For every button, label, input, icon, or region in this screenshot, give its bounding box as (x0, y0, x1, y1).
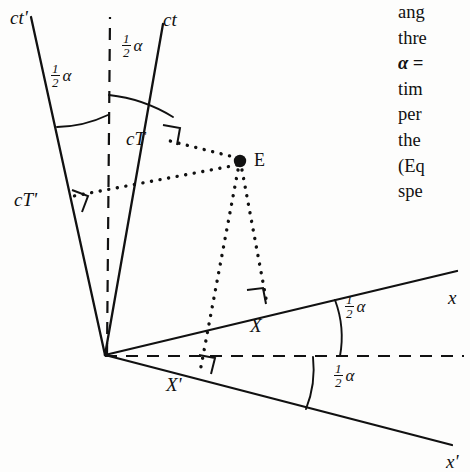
dotted-E-to-x-prime (200, 170, 238, 372)
axis-label-ct-prime: ct' (10, 8, 28, 27)
fraction-denominator: 2 (51, 76, 60, 89)
angle-label-half-alpha-ct-prime: 1 2 α (51, 62, 71, 90)
fraction-numerator: 1 (51, 62, 60, 76)
angle-arcs-group (57, 95, 342, 409)
axis-label-x: x (448, 288, 456, 307)
text-line: ang (398, 0, 470, 26)
right-angle-marker-cT-prime (72, 190, 88, 212)
angle-arc-ct-prime (57, 115, 108, 127)
text-line: spe (398, 179, 470, 205)
angle-label-half-alpha-ct: 1 2 α (122, 32, 142, 60)
text-line: α = (398, 51, 470, 77)
text-line: the (398, 128, 470, 154)
body-text-column: ang thre α = tim per the (Eq spe (398, 0, 470, 205)
fraction-numerator: 1 (334, 362, 343, 376)
text-line: per (398, 102, 470, 128)
fraction-denominator: 2 (345, 307, 354, 320)
fraction-one-half: 1 2 (334, 362, 343, 390)
axis-label-x-prime: x' (446, 452, 459, 471)
fraction-denominator: 2 (334, 376, 343, 389)
angle-arc-ct (109, 95, 173, 117)
dotted-projections-group (74, 140, 267, 372)
vertical-bisector-dashed (107, 17, 110, 355)
dotted-E-to-ct-prime (74, 165, 237, 196)
angle-arc-x (335, 300, 342, 356)
angle-label-half-alpha-x: 1 2 α (345, 293, 365, 321)
fraction-one-half: 1 2 (345, 293, 354, 321)
solid-axes-group (31, 17, 457, 445)
segment-label-cT: cT (126, 129, 145, 148)
fraction-one-half: 1 2 (51, 62, 60, 90)
alpha-symbol: α (346, 367, 355, 384)
alpha-symbol: α (134, 37, 143, 54)
text-line: tim (398, 77, 470, 103)
dotted-E-to-x (242, 170, 267, 304)
figure-root: ct' ct x x' cT cT' X X' E 1 2 α 1 2 α 1 … (0, 0, 470, 472)
event-label-E: E (254, 151, 265, 169)
text-line: (Eq (398, 154, 470, 180)
x-axis-line (105, 271, 457, 355)
event-point-E-dot (234, 155, 246, 167)
angle-label-half-alpha-x-prime: 1 2 α (334, 362, 354, 390)
segment-label-cT-prime: cT' (14, 190, 37, 209)
segment-label-X: X (250, 316, 262, 335)
fraction-numerator: 1 (122, 32, 131, 46)
fraction-one-half: 1 2 (122, 32, 131, 60)
fraction-denominator: 2 (122, 46, 131, 59)
text-line: thre (398, 26, 470, 52)
x-prime-axis-line (105, 355, 452, 445)
axis-label-ct: ct (163, 10, 177, 29)
segment-label-X-prime: X' (166, 375, 182, 394)
right-angle-marker-X (247, 288, 266, 304)
fraction-numerator: 1 (345, 293, 354, 307)
ct-axis-line (105, 24, 163, 355)
alpha-symbol: α (63, 67, 72, 84)
angle-arc-x-prime (306, 357, 314, 409)
alpha-symbol: α (357, 298, 366, 315)
